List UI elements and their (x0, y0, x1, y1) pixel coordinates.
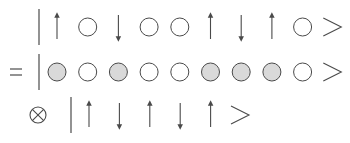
empty-circle-icon (79, 63, 97, 81)
empty-circle-icon (140, 18, 158, 36)
filled-circle-icon (263, 63, 281, 81)
empty-circle-icon (79, 18, 97, 36)
empty-circle-icon (171, 63, 189, 81)
empty-circle-icon (140, 63, 158, 81)
equals-sign (10, 69, 22, 75)
filled-circle-icon (232, 63, 250, 81)
greater-than-icon (231, 106, 249, 124)
filled-circle-icon (202, 63, 220, 81)
row-3-operator-sequence (30, 97, 249, 133)
empty-circle-icon (294, 18, 312, 36)
greater-than-icon (323, 18, 341, 36)
empty-circle-icon (171, 18, 189, 36)
sequence-diagram (0, 0, 350, 143)
filled-circle-icon (109, 63, 127, 81)
otimes-operator-icon (30, 107, 46, 123)
greater-than-icon (323, 63, 341, 81)
empty-circle-icon (294, 63, 312, 81)
row-2-result-sequence (10, 54, 341, 90)
filled-circle-icon (48, 63, 66, 81)
row-1-sequence (39, 9, 341, 45)
